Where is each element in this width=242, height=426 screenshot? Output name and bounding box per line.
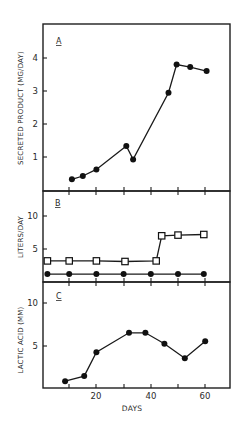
panel-a-ytick-3: 3 [33, 86, 38, 96]
figure-svg: A 4 3 2 1 SECRETED PRODUCT (MG/DAY) [0, 0, 242, 426]
filled-circle-marker [174, 62, 180, 68]
open-square-marker [175, 232, 181, 238]
filled-circle-marker [69, 176, 75, 182]
open-square-marker [201, 231, 207, 237]
filled-circle-marker [161, 341, 167, 347]
panel-a-marker: A [56, 37, 62, 46]
panel-a-ytick-2: 2 [33, 119, 38, 129]
xtick-40: 40 [146, 391, 157, 401]
filled-circle-marker [201, 271, 207, 277]
panel-c-xticks [69, 282, 205, 388]
filled-circle-marker [66, 271, 72, 277]
panel-b-ylabel: LITERS/DAY [17, 215, 25, 258]
open-square-marker [122, 258, 128, 264]
filled-circle-marker [166, 90, 172, 96]
panel-a-frame [43, 24, 230, 191]
filled-circle-marker [187, 64, 193, 70]
panel-b-series-filled-circles [44, 271, 206, 277]
panel-a-series-secreted-product [69, 62, 210, 183]
open-square-marker [44, 258, 50, 264]
filled-circle-marker [126, 330, 132, 336]
filled-circle-marker [130, 156, 136, 162]
filled-circle-marker [121, 271, 127, 277]
filled-circle-marker [123, 143, 129, 149]
filled-circle-marker [148, 271, 154, 277]
panel-b-ytick-10: 10 [27, 211, 38, 221]
open-square-marker [93, 258, 99, 264]
filled-circle-marker [202, 338, 208, 344]
panel-b-xticks [69, 191, 205, 282]
filled-circle-marker [93, 271, 99, 277]
x-axis-label: DAYS [122, 404, 142, 413]
panel-c-ytick-10: 10 [27, 298, 38, 308]
panel-c-ylabel: LACTIC ACID (MM) [17, 306, 25, 373]
panel-c-marker: C [56, 292, 62, 301]
filled-circle-marker [81, 373, 87, 379]
panel-a-ytick-4: 4 [33, 53, 38, 63]
filled-circle-marker [62, 378, 68, 384]
xtick-60: 60 [200, 391, 211, 401]
filled-circle-marker [175, 271, 181, 277]
filled-circle-marker [142, 330, 148, 336]
panel-a: A 4 3 2 1 SECRETED PRODUCT (MG/DAY) [17, 24, 230, 191]
panel-c-series-lactic-acid [62, 330, 208, 384]
series-line [72, 65, 207, 180]
panel-a-ylabel: SECRETED PRODUCT (MG/DAY) [17, 51, 25, 165]
open-square-marker [159, 233, 165, 239]
panel-b: B 10 5 LITERS/DAY [17, 191, 230, 282]
panel-c: C 10 5 LACTIC ACID (MM) [17, 282, 230, 413]
panel-c-ytick-5: 5 [33, 341, 38, 351]
xtick-20: 20 [91, 391, 102, 401]
filled-circle-marker [204, 68, 210, 74]
open-square-marker [153, 258, 159, 264]
filled-circle-marker [93, 349, 99, 355]
panel-a-ytick-1: 1 [33, 152, 38, 162]
open-square-marker [66, 258, 72, 264]
panel-c-frame [43, 282, 230, 388]
panel-b-series-open-squares [44, 231, 207, 264]
panel-b-marker: B [55, 199, 61, 208]
filled-circle-marker [93, 166, 99, 172]
three-panel-time-course-figure: A 4 3 2 1 SECRETED PRODUCT (MG/DAY) [0, 0, 242, 426]
filled-circle-marker [182, 355, 188, 361]
panel-b-ytick-5: 5 [33, 244, 38, 254]
filled-circle-marker [80, 173, 86, 179]
filled-circle-marker [44, 271, 50, 277]
